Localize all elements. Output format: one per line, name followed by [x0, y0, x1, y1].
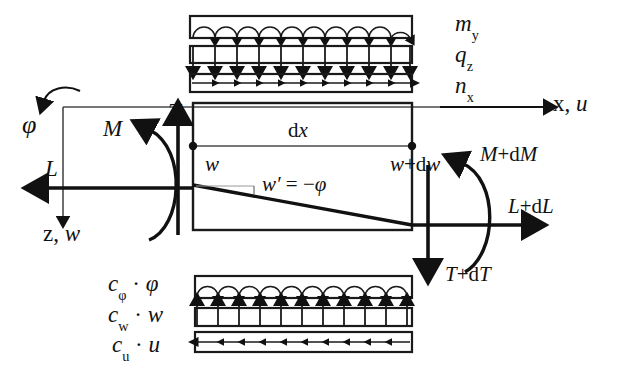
cu-arrow-markers: [217, 338, 393, 346]
label-slope-relation: w′ = −φ: [262, 174, 326, 195]
nx-arrow-markers: [212, 79, 396, 87]
load-box-nx: [190, 74, 412, 92]
label-deflection-right: w+dw: [390, 154, 440, 175]
label-shear-right: T+dT: [445, 264, 491, 285]
label-cu: cu · u: [112, 333, 160, 360]
load-box-cw: [195, 304, 412, 326]
label-nx: nx: [455, 74, 474, 101]
figure-canvas: my qz nx x, u z, w φ M L T M+dM L+dL T+d…: [0, 0, 622, 380]
moment-arc-right: [462, 163, 490, 272]
label-qz: qz: [455, 43, 473, 70]
load-box-cphi: [195, 276, 412, 298]
cphi-arc-markers: [197, 287, 407, 298]
node-dot-right: [408, 142, 416, 150]
label-cw: cw · w: [108, 303, 163, 330]
load-box-my: [190, 16, 412, 38]
load-box-cu: [195, 332, 412, 352]
label-shear-left: T: [168, 100, 181, 123]
qz-arrow-markers: [193, 46, 410, 68]
label-moment-left: M: [103, 117, 122, 140]
label-normal-left: L: [45, 157, 58, 180]
label-cphi: cφ · φ: [108, 272, 158, 299]
label-deflection-left: w: [205, 154, 219, 175]
load-box-qz: [190, 46, 412, 68]
label-my: my: [455, 12, 479, 39]
label-z-axis: z, w: [43, 222, 80, 245]
moment-arc-left: [149, 130, 176, 240]
label-x-axis: x, u: [553, 92, 588, 115]
my-arc-markers: [193, 27, 410, 38]
label-normal-right: L+dL: [508, 196, 554, 217]
label-element-length: dx: [288, 120, 308, 141]
label-phi-rotation: φ: [22, 112, 36, 138]
node-dot-left: [189, 142, 197, 150]
rotation-arrow-phi: [44, 88, 80, 101]
label-moment-right: M+dM: [480, 144, 537, 165]
